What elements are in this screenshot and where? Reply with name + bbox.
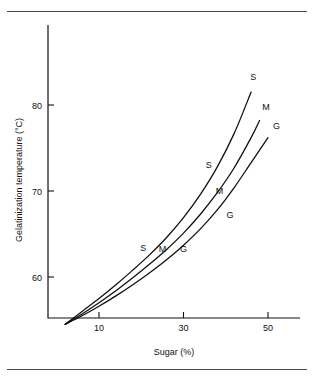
curve-label-g: G (180, 244, 187, 254)
y-axis-title: Gelatinization temperature (°C) (14, 118, 24, 242)
curve-label-s: S (206, 160, 212, 170)
axes (48, 25, 300, 318)
x-axis-ticks: 103050 (94, 312, 273, 333)
figure-container: 103050 607080 SMGSMGSMG Sugar (%) Gelati… (0, 0, 320, 379)
curve-s (65, 92, 251, 324)
curve-label-s: S (250, 72, 256, 82)
x-tick-label: 30 (178, 323, 188, 333)
x-tick-label: 50 (263, 323, 273, 333)
axis-lines (48, 25, 300, 318)
y-tick-label: 70 (32, 187, 42, 197)
y-tick-label: 80 (32, 101, 42, 111)
curve-g (65, 138, 268, 325)
curve-label-m: M (159, 244, 167, 254)
curve-label-g: G (273, 121, 280, 131)
curve-inline-labels: SMGSMGSMG (140, 72, 280, 254)
curve-label-g: G (226, 210, 233, 220)
curve-label-s: S (140, 243, 146, 253)
curve-label-m: M (216, 186, 224, 196)
y-tick-label: 60 (32, 273, 42, 283)
data-curves (65, 92, 268, 324)
x-axis-title: Sugar (%) (154, 347, 195, 357)
x-tick-label: 10 (94, 323, 104, 333)
chart-svg: 103050 607080 SMGSMGSMG Sugar (%) Gelati… (0, 0, 320, 379)
curve-m (65, 120, 259, 324)
curve-label-m: M (262, 102, 270, 112)
y-axis-ticks: 607080 (32, 101, 54, 283)
